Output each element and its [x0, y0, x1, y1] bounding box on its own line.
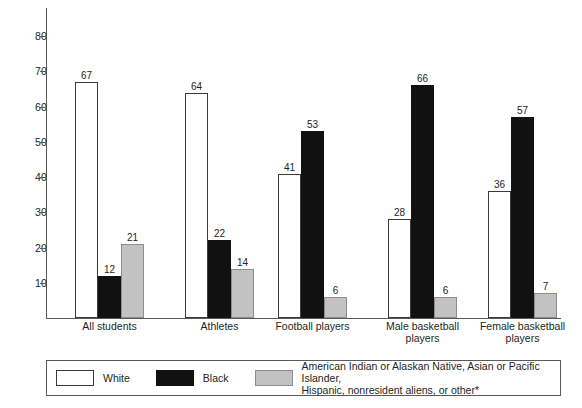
y-tick-40: 40 [0, 172, 47, 182]
y-tick-mark [40, 142, 47, 143]
legend-item-other: American Indian or Alaskan Native, Asian… [255, 361, 560, 395]
bar-slot: 14 [231, 269, 254, 318]
legend-label-other-line1: American Indian or Alaskan Native, Asian… [302, 360, 540, 384]
bar-slot: 12 [98, 276, 121, 318]
y-tick-50: 50 [0, 137, 47, 147]
x-axis-category-label-line: Athletes [201, 320, 239, 332]
bar-group: 671221All students [75, 8, 144, 318]
bar-slot: 67 [75, 82, 98, 318]
legend-swatch-white-icon [56, 370, 94, 386]
legend-label-white: White [103, 372, 130, 384]
legend-swatch-black-icon [156, 370, 194, 386]
bar-value-label: 67 [81, 71, 92, 81]
bar[interactable]: 66 [411, 85, 434, 318]
bar[interactable]: 14 [231, 269, 254, 318]
bar-value-label: 6 [443, 286, 449, 296]
y-axis-line [46, 8, 47, 319]
y-tick-60: 60 [0, 102, 47, 112]
x-axis-category-label-line: Female basketball [480, 320, 565, 332]
bar-group-bars: 36577 [488, 117, 557, 318]
bar-value-label: 57 [517, 106, 528, 116]
bar[interactable]: 6 [324, 297, 347, 318]
bar-slot: 22 [208, 240, 231, 318]
legend-item-black: Black [156, 361, 229, 395]
x-axis-category-label: Male basketballplayers [386, 320, 459, 344]
bar-value-label: 7 [543, 282, 549, 292]
y-tick-70: 70 [0, 66, 47, 76]
x-axis-line [46, 318, 561, 319]
legend-item-white: White [56, 361, 130, 395]
legend-swatch-other-icon [255, 370, 293, 386]
bar[interactable]: 28 [388, 219, 411, 318]
y-tick-mark [40, 36, 47, 37]
bar-group-bars: 41536 [278, 131, 347, 318]
bar-value-label: 22 [214, 229, 225, 239]
bar-slot: 6 [434, 297, 457, 318]
bar-value-label: 21 [127, 233, 138, 243]
y-tick-mark [40, 248, 47, 249]
legend-label-other-line2: Hispanic, nonresident aliens, or other* [302, 384, 479, 396]
y-tick-mark [40, 283, 47, 284]
y-tick-30: 30 [0, 207, 47, 217]
bar-slot: 21 [121, 244, 144, 318]
bar[interactable]: 41 [278, 174, 301, 318]
bar-chart: 1020304050607080 671221All students64221… [0, 0, 582, 408]
bar[interactable]: 7 [534, 293, 557, 318]
bar[interactable]: 53 [301, 131, 324, 318]
bar-group-bars: 642214 [185, 93, 254, 318]
bar-value-label: 66 [417, 74, 428, 84]
bar-group-bars: 28666 [388, 85, 457, 318]
x-axis-category-label-line: players [406, 332, 440, 344]
bar-slot: 53 [301, 131, 324, 318]
bar-slot: 41 [278, 174, 301, 318]
x-axis-category-label-line: All students [82, 320, 136, 332]
bar[interactable]: 21 [121, 244, 144, 318]
bar-slot: 64 [185, 93, 208, 318]
bar[interactable]: 67 [75, 82, 98, 318]
x-axis-category-label-line: Male basketball [386, 320, 459, 332]
legend-label-black: Black [203, 372, 229, 384]
bar-slot: 57 [511, 117, 534, 318]
chart-legend: White Black American Indian or Alaskan N… [46, 360, 561, 396]
plot-area: 1020304050607080 671221All students64221… [0, 0, 582, 350]
x-axis-category-label: Football players [275, 320, 349, 332]
x-axis-category-label: Athletes [201, 320, 239, 332]
x-axis-category-label-line: Football players [275, 320, 349, 332]
y-tick-20: 20 [0, 243, 47, 253]
y-tick-10: 10 [0, 278, 47, 288]
bar-value-label: 41 [284, 163, 295, 173]
bar-group: 28666Male basketballplayers [388, 8, 457, 318]
bar-group: 41536Football players [278, 8, 347, 318]
bar-value-label: 6 [333, 286, 339, 296]
bar-value-label: 36 [494, 180, 505, 190]
x-axis-category-label: Female basketballplayers [480, 320, 565, 344]
bar-group: 36577Female basketballplayers [488, 8, 557, 318]
bar[interactable]: 36 [488, 191, 511, 318]
bar-value-label: 64 [191, 82, 202, 92]
y-tick-mark [40, 107, 47, 108]
bar-value-label: 53 [307, 120, 318, 130]
bar[interactable]: 12 [98, 276, 121, 318]
bar-value-label: 28 [394, 208, 405, 218]
bar-slot: 36 [488, 191, 511, 318]
bar[interactable]: 6 [434, 297, 457, 318]
bar-group-bars: 671221 [75, 82, 144, 318]
x-axis-category-label: All students [82, 320, 136, 332]
bar-slot: 6 [324, 297, 347, 318]
bar[interactable]: 57 [511, 117, 534, 318]
y-tick-80: 80 [0, 31, 47, 41]
y-tick-mark [40, 177, 47, 178]
y-tick-mark [40, 212, 47, 213]
bar[interactable]: 64 [185, 93, 208, 318]
x-axis-category-label-line: players [506, 332, 540, 344]
bar-value-label: 12 [104, 265, 115, 275]
bar-slot: 7 [534, 293, 557, 318]
bar-slot: 66 [411, 85, 434, 318]
bar-group: 642214Athletes [185, 8, 254, 318]
bar[interactable]: 22 [208, 240, 231, 318]
bar-value-label: 14 [237, 258, 248, 268]
y-tick-mark [40, 71, 47, 72]
bar-slot: 28 [388, 219, 411, 318]
legend-label-other: American Indian or Alaskan Native, Asian… [302, 360, 560, 396]
